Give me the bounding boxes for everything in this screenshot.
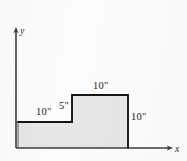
dimension-label-step-riser: 5": [59, 101, 69, 112]
y-axis-label: y: [20, 27, 24, 37]
dimension-label-right-edge: 10": [131, 112, 146, 123]
x-axis-label: x: [175, 145, 179, 155]
dimension-label-bottom-left: 10": [36, 107, 51, 118]
dimension-label-top-edge: 10": [93, 81, 108, 92]
geometry-figure: 10" 5" 10" 10" y x: [0, 0, 187, 161]
